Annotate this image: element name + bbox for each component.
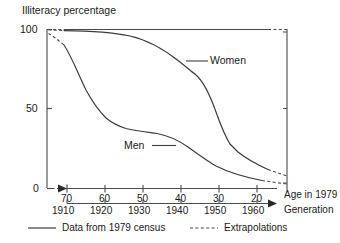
age-tick-label-30: 30 bbox=[213, 194, 224, 204]
y-tick-marks bbox=[47, 30, 52, 189]
chart-title: Illiteracy percentage bbox=[22, 5, 116, 16]
age-tick-label-60: 60 bbox=[99, 194, 110, 204]
legend-label-census: Data from 1979 census bbox=[62, 223, 165, 233]
legend-label-extrapolations: Extrapolations bbox=[224, 223, 287, 233]
age-tick-label-50: 50 bbox=[137, 194, 148, 204]
x-axis-label-age: Age in 1979 bbox=[284, 190, 337, 200]
right-axis-tick-marks bbox=[283, 32, 287, 183]
age-tick-label-40: 40 bbox=[175, 194, 186, 204]
series-line-women bbox=[64, 31, 268, 170]
y-tick-label-0: 0 bbox=[33, 183, 39, 194]
generation-tick-label-1910: 1910 bbox=[52, 206, 74, 216]
age-axis-start-arrow bbox=[58, 185, 67, 193]
y-tick-label-100: 100 bbox=[20, 24, 38, 35]
y-tick-label-50: 50 bbox=[26, 103, 38, 114]
generation-tick-label-1930: 1930 bbox=[128, 206, 150, 216]
generation-axis-arrow bbox=[268, 200, 277, 208]
series-label-men: Men bbox=[124, 140, 144, 151]
generation-tick-label-1920: 1920 bbox=[90, 206, 112, 216]
extrapolation-women-upper bbox=[49, 30, 65, 31]
generation-tick-label-1960: 1960 bbox=[242, 206, 264, 216]
series-label-women: Women bbox=[210, 55, 246, 66]
age-tick-label-20: 20 bbox=[251, 194, 262, 204]
age-tick-label-70: 70 bbox=[61, 194, 72, 204]
x-axis-label-generation: Generation bbox=[284, 205, 333, 215]
illiteracy-chart-figure: Illiteracy percentage 100 50 0 Women Men… bbox=[0, 0, 340, 243]
extrapolation-women-lower bbox=[268, 170, 287, 177]
generation-tick-label-1940: 1940 bbox=[166, 206, 188, 216]
generation-axis-ticks bbox=[67, 200, 257, 204]
extrapolation-men-upper bbox=[49, 34, 65, 46]
generation-tick-label-1950: 1950 bbox=[204, 206, 226, 216]
